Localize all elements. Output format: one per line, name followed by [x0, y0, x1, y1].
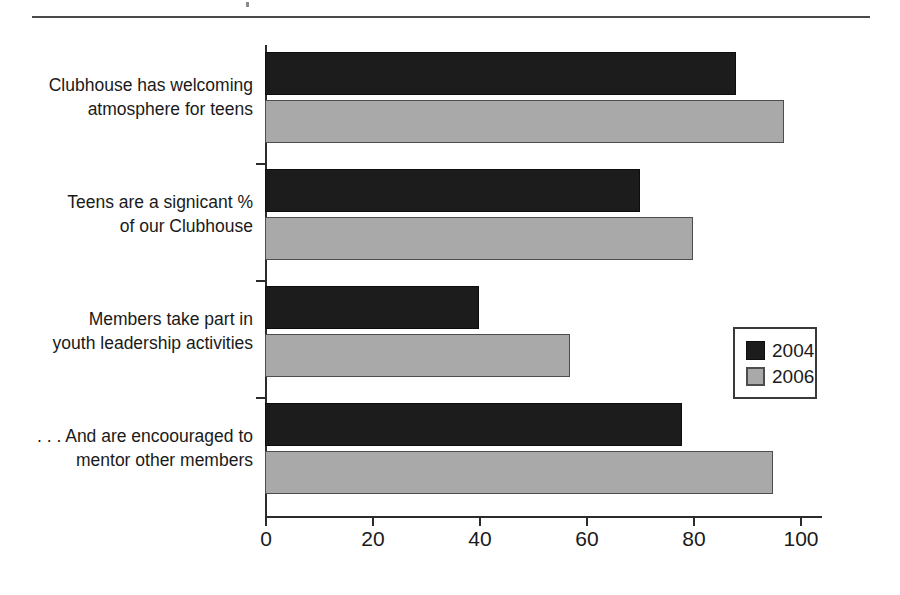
- x-axis-line: 020406080100: [265, 516, 822, 518]
- series-2004-swatch: [746, 341, 765, 360]
- category-label-1: Clubhouse has welcomingatmosphere for te…: [3, 74, 253, 121]
- x-axis-tick-label-80: 80: [682, 528, 705, 549]
- x-axis-tick-label-0: 0: [260, 528, 272, 549]
- y-axis-tick-1: [256, 163, 265, 165]
- category-label-line: mentor other members: [3, 449, 253, 472]
- category-label-line: of our Clubhouse: [3, 215, 253, 238]
- chart-legend: 2004 2006: [733, 327, 817, 399]
- category-label-line: atmosphere for teens: [3, 98, 253, 121]
- bar-2006-category-4: [265, 451, 773, 494]
- legend-label-2006: 2006: [772, 367, 814, 386]
- bar-2004-category-1: [265, 52, 736, 95]
- x-axis-tick-60: [586, 516, 588, 526]
- y-axis-tick-3: [256, 397, 265, 399]
- plot-area: [265, 45, 820, 515]
- category-label-line: . . . And are encoouraged to: [3, 425, 253, 448]
- bar-2006-category-1: [265, 100, 784, 143]
- chart-page: Clubhouse has welcomingatmosphere for te…: [0, 0, 900, 595]
- category-label-line: Members take part in: [3, 308, 253, 331]
- category-label-2: Teens are a signicant %of our Clubhouse: [3, 191, 253, 238]
- category-label-line: youth leadership activities: [3, 332, 253, 355]
- x-axis-tick-100: [800, 516, 802, 526]
- bar-2006-category-3: [265, 334, 570, 377]
- x-axis-tick-40: [479, 516, 481, 526]
- x-axis-tick-label-100: 100: [783, 528, 818, 549]
- bar-2004-category-3: [265, 286, 479, 329]
- x-axis-tick-label-40: 40: [468, 528, 491, 549]
- legend-item-2004[interactable]: 2004: [746, 337, 815, 363]
- x-axis-tick-0: [265, 516, 267, 526]
- category-label-4: . . . And are encoouraged tomentor other…: [3, 425, 253, 472]
- legend-item-2006[interactable]: 2006: [746, 363, 815, 389]
- bar-2004-category-2: [265, 169, 640, 212]
- category-label-3: Members take part inyouth leadership act…: [3, 308, 253, 355]
- x-axis-tick-80: [693, 516, 695, 526]
- y-axis-tick-2: [256, 280, 265, 282]
- series-2006-swatch: [746, 367, 765, 386]
- category-label-line: Clubhouse has welcoming: [3, 74, 253, 97]
- category-label-line: Teens are a signicant %: [3, 191, 253, 214]
- x-axis-tick-label-20: 20: [361, 528, 384, 549]
- bar-2004-category-4: [265, 403, 682, 446]
- x-axis-tick-20: [372, 516, 374, 526]
- bar-2006-category-2: [265, 217, 693, 260]
- x-axis-tick-label-60: 60: [575, 528, 598, 549]
- legend-label-2004: 2004: [772, 341, 814, 360]
- category-axis-labels: Clubhouse has welcomingatmosphere for te…: [0, 0, 253, 595]
